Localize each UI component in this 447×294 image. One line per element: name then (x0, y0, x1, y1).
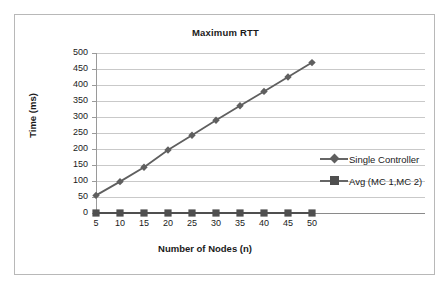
y-axis-title: Time (ms) (27, 66, 38, 166)
gridline (96, 197, 425, 198)
gridline (96, 133, 425, 134)
x-axis-title: Number of Nodes (n) (15, 243, 395, 254)
series-line (96, 63, 312, 196)
legend-label: Avg (MC 1,MC 2) (348, 176, 422, 187)
data-point-marker (236, 102, 243, 109)
diamond-marker-icon (320, 153, 348, 165)
chart-title: Maximum RTT (15, 27, 436, 38)
y-tick-label: 50 (58, 192, 88, 201)
x-tick-label: 20 (156, 218, 180, 228)
y-tick-label: 100 (58, 176, 88, 185)
x-tick-label: 40 (252, 218, 276, 228)
y-tick-label: 250 (58, 128, 88, 137)
chart-frame: Maximum RTT 0501001502002503003504004505… (14, 14, 435, 275)
y-tick-label: 450 (58, 64, 88, 73)
x-tick-label: 25 (180, 218, 204, 228)
y-tick-label: 500 (58, 48, 88, 57)
x-tick-label: 10 (108, 218, 132, 228)
y-tick-label: 300 (58, 112, 88, 121)
x-tick-label: 45 (276, 218, 300, 228)
y-tick-label: 400 (58, 80, 88, 89)
x-tick-label: 35 (228, 218, 252, 228)
gridline (96, 213, 425, 214)
data-point-marker (284, 73, 291, 80)
y-tick-label: 200 (58, 144, 88, 153)
legend-item-avg-mc[interactable]: Avg (MC 1,MC 2) (320, 170, 432, 192)
gridline (96, 85, 425, 86)
y-tick-label: 150 (58, 160, 88, 169)
square-marker-icon (320, 175, 348, 187)
y-tick-label: 350 (58, 96, 88, 105)
data-point-marker (260, 88, 267, 95)
x-tick-label: 5 (84, 218, 108, 228)
data-point-marker (308, 59, 315, 66)
y-tick-label: 0 (58, 208, 88, 217)
chart-legend: Single Controller Avg (MC 1,MC 2) (320, 148, 432, 192)
gridline (96, 69, 425, 70)
legend-item-single-controller[interactable]: Single Controller (320, 148, 432, 170)
gridline (96, 101, 425, 102)
x-tick-label: 15 (132, 218, 156, 228)
gridline (96, 117, 425, 118)
legend-label: Single Controller (348, 154, 419, 165)
x-tick-label: 50 (300, 218, 324, 228)
gridline (96, 53, 425, 54)
x-tick-label: 30 (204, 218, 228, 228)
chart-figure: Maximum RTT 0501001502002503003504004505… (0, 0, 447, 294)
y-axis-line (96, 53, 97, 214)
